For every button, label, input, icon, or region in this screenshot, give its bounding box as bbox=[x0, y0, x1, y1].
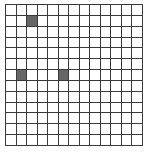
grid-cell bbox=[17, 59, 28, 70]
grid-cell bbox=[27, 59, 38, 70]
grid-cell bbox=[101, 38, 112, 49]
grid-cell bbox=[69, 48, 80, 59]
grid-cell bbox=[38, 92, 49, 103]
grid-cell bbox=[101, 27, 112, 38]
grid-cell bbox=[101, 92, 112, 103]
grid-cell bbox=[111, 16, 122, 27]
grid-cell bbox=[132, 70, 143, 81]
grid-cell bbox=[90, 16, 101, 27]
grid-cell bbox=[111, 124, 122, 135]
grid-cell bbox=[48, 70, 59, 81]
grid-cell bbox=[111, 113, 122, 124]
grid-cell bbox=[111, 48, 122, 59]
grid-cell bbox=[6, 38, 17, 49]
grid-cell bbox=[122, 113, 133, 124]
grid-cell bbox=[101, 135, 112, 146]
grid-cell bbox=[38, 59, 49, 70]
grid-cell bbox=[101, 16, 112, 27]
grid-cell bbox=[122, 59, 133, 70]
grid-cell bbox=[90, 38, 101, 49]
grid-cell bbox=[90, 27, 101, 38]
grid-cell bbox=[111, 81, 122, 92]
grid-cell bbox=[48, 38, 59, 49]
grid-cell bbox=[132, 81, 143, 92]
grid-cell bbox=[6, 70, 17, 81]
grid-cell bbox=[132, 113, 143, 124]
grid-cell bbox=[48, 135, 59, 146]
grid-cell bbox=[59, 5, 70, 16]
grid-cell bbox=[38, 124, 49, 135]
grid-cell bbox=[27, 124, 38, 135]
grid-cell bbox=[101, 70, 112, 81]
grid-cell bbox=[122, 70, 133, 81]
grid-cell bbox=[59, 27, 70, 38]
grid-cell bbox=[17, 124, 28, 135]
grid-cell bbox=[90, 135, 101, 146]
grid-cell bbox=[38, 103, 49, 114]
grid-cell bbox=[101, 48, 112, 59]
grid-cell bbox=[80, 135, 91, 146]
grid-cell bbox=[27, 81, 38, 92]
grid-cell bbox=[27, 70, 38, 81]
grid-cell bbox=[101, 113, 112, 124]
grid-cell bbox=[38, 38, 49, 49]
grid-cell bbox=[80, 38, 91, 49]
grid-cell bbox=[59, 103, 70, 114]
grid-cell bbox=[111, 135, 122, 146]
grid-cell bbox=[69, 113, 80, 124]
grid-cell bbox=[59, 92, 70, 103]
grid-cell bbox=[27, 38, 38, 49]
grid-cell bbox=[69, 38, 80, 49]
grid-cell bbox=[48, 59, 59, 70]
grid-cell bbox=[59, 81, 70, 92]
grid-cell bbox=[90, 70, 101, 81]
grid-cell bbox=[80, 59, 91, 70]
grid-cell bbox=[59, 124, 70, 135]
grid-cell bbox=[111, 27, 122, 38]
grid-cell bbox=[122, 38, 133, 49]
grid-cell bbox=[48, 48, 59, 59]
grid-cell bbox=[6, 92, 17, 103]
grid-cell bbox=[111, 5, 122, 16]
grid-cell bbox=[17, 135, 28, 146]
grid-cell bbox=[69, 16, 80, 27]
grid-cell bbox=[59, 135, 70, 146]
grid-cell bbox=[48, 103, 59, 114]
grid-cell bbox=[132, 92, 143, 103]
grid-cell bbox=[69, 27, 80, 38]
grid-cell bbox=[17, 48, 28, 59]
grid-cell bbox=[132, 16, 143, 27]
grid-cell bbox=[38, 113, 49, 124]
grid-cell bbox=[132, 103, 143, 114]
grid-cell bbox=[17, 103, 28, 114]
grid-cell bbox=[17, 16, 28, 27]
grid-cell bbox=[27, 5, 38, 16]
grid-cell-filled bbox=[17, 70, 28, 81]
grid-cell bbox=[6, 124, 17, 135]
grid-cell bbox=[80, 16, 91, 27]
grid-cell bbox=[122, 16, 133, 27]
grid-cell bbox=[122, 48, 133, 59]
grid-cell bbox=[80, 48, 91, 59]
grid-cell bbox=[111, 103, 122, 114]
grid-cell bbox=[59, 38, 70, 49]
grid-cell bbox=[80, 113, 91, 124]
grid-cell bbox=[59, 16, 70, 27]
grid-cell bbox=[48, 92, 59, 103]
grid-cell bbox=[132, 59, 143, 70]
grid-cell bbox=[122, 27, 133, 38]
grid-cell bbox=[6, 48, 17, 59]
grid-cell bbox=[90, 103, 101, 114]
grid-cell bbox=[27, 48, 38, 59]
grid-cell bbox=[80, 27, 91, 38]
grid-cell bbox=[101, 59, 112, 70]
grid-cell bbox=[59, 113, 70, 124]
grid-cell bbox=[38, 48, 49, 59]
grid-cell bbox=[90, 59, 101, 70]
grid-cell bbox=[6, 5, 17, 16]
grid-cell bbox=[132, 48, 143, 59]
grid-cell bbox=[122, 124, 133, 135]
grid-cell bbox=[6, 27, 17, 38]
grid-cell bbox=[90, 92, 101, 103]
grid-cell bbox=[38, 27, 49, 38]
